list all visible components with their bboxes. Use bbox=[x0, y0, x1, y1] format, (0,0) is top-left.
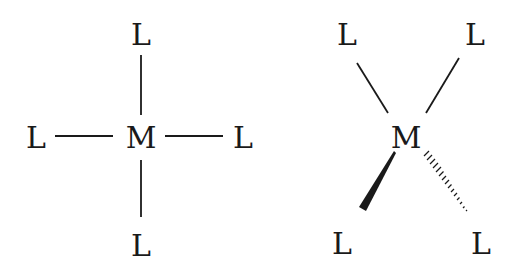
wedge-bond bbox=[359, 151, 396, 211]
ligand-top: L bbox=[131, 17, 151, 52]
ligand-bottom-left: L bbox=[332, 226, 352, 261]
ligand-left: L bbox=[26, 120, 46, 155]
ligand-bottom-right: L bbox=[471, 226, 491, 261]
metal-center: M bbox=[126, 120, 157, 155]
ligand-top-left: L bbox=[337, 17, 357, 52]
bond-top-left bbox=[357, 63, 388, 113]
ligand-right: L bbox=[233, 120, 253, 155]
hashed-bond bbox=[424, 151, 467, 211]
geometry-diagram: M L L L L M L L bbox=[0, 0, 505, 266]
metal-center: M bbox=[391, 120, 422, 155]
square-planar-structure: M L L L L bbox=[26, 17, 253, 263]
ligand-top-right: L bbox=[465, 17, 485, 52]
bond-top-right bbox=[426, 58, 459, 113]
tetrahedral-structure: M L L L L bbox=[332, 17, 491, 261]
ligand-bottom: L bbox=[131, 228, 151, 263]
